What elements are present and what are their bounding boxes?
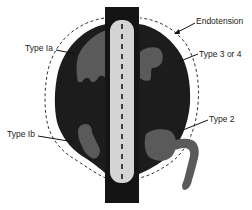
lumbar-branch-vessel — [172, 139, 199, 190]
type-ia-label: Type Ia — [25, 44, 53, 53]
type-ib-label: Type Ib — [7, 130, 35, 139]
endotension-arrowhead — [174, 29, 180, 34]
type-3-or-4-label: Type 3 or 4 — [199, 50, 242, 59]
type-2-label: Type 2 — [209, 115, 235, 124]
endotension-label: Endotension — [196, 17, 243, 26]
endoleak-diagram — [0, 0, 252, 210]
type-2-leak — [145, 129, 176, 161]
